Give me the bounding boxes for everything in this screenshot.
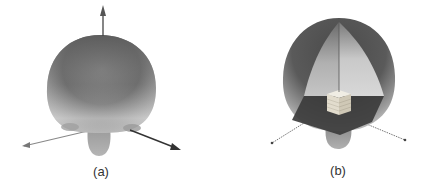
caption-a: (a) [93,164,109,179]
y-axis-arrowhead-icon [22,142,30,148]
panel-a: (a) [0,0,212,190]
antenna-block [327,90,351,115]
y-axis-line [24,130,92,146]
panel-b: (b) [212,0,425,190]
radiation-pattern-cutaway [212,0,425,190]
caption-b: (b) [330,163,346,178]
z-axis-arrowhead-icon [100,5,106,16]
x-axis-line [130,130,176,148]
radiation-pattern-solid [0,0,212,190]
x-axis-arrowhead-icon [170,143,181,150]
y-axis-end-icon [271,142,274,145]
x-axis-end-icon [404,139,407,142]
